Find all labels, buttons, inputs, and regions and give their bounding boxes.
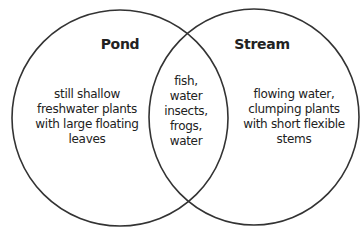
pond-description: still shallow freshwater plants with lar… (18, 87, 156, 147)
intersection-description: fish, water insects, frogs, water (150, 74, 222, 149)
stream-description: flowing water, clumping plants with shor… (232, 87, 356, 147)
pond-title: Pond (80, 36, 160, 52)
stream-title: Stream (222, 36, 302, 52)
